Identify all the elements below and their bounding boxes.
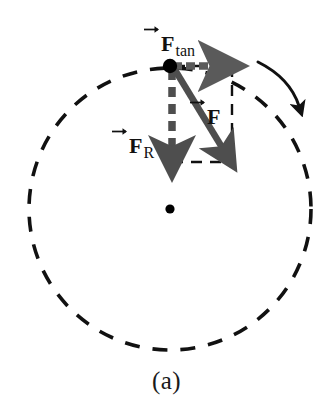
motion-direction-arc-icon <box>258 62 299 106</box>
physics-figure: Ftan FR F (a) <box>0 0 333 413</box>
tangential-force-label: Ftan <box>161 33 194 55</box>
radial-force-symbol: F <box>129 135 142 157</box>
vector-arrow-icon <box>189 97 206 106</box>
tangential-force-symbol: F <box>161 33 174 55</box>
particle-dot <box>163 59 177 73</box>
net-force-symbol: F <box>207 106 220 128</box>
vector-arrow-icon <box>111 126 128 135</box>
figure-canvas <box>0 0 333 413</box>
circle-center-dot <box>165 204 174 213</box>
radial-force-label: FR <box>129 135 153 157</box>
tangential-force-subscript: tan <box>175 42 195 59</box>
figure-caption: (a) <box>0 367 333 395</box>
vector-arrow-icon <box>143 24 160 33</box>
radial-force-subscript: R <box>143 144 154 161</box>
net-force-label: F <box>207 106 220 128</box>
